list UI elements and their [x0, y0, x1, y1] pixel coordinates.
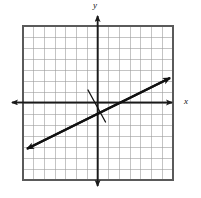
figure-background	[0, 0, 201, 198]
y-axis-label: y	[93, 1, 97, 10]
coordinate-plane-graph	[0, 0, 201, 198]
graph-figure: y x	[0, 0, 201, 198]
x-axis-label: x	[184, 97, 188, 106]
